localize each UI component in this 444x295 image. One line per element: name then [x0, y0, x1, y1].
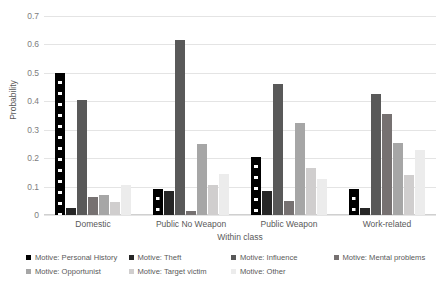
legend-swatch-icon [129, 255, 134, 260]
gridline [44, 215, 436, 216]
bar [295, 123, 305, 215]
y-axis-tick-label: 0 [34, 211, 39, 220]
y-axis-tick-label: 0.6 [27, 40, 39, 49]
bar [186, 211, 196, 215]
bar [55, 73, 65, 215]
bar [251, 157, 261, 215]
legend-item[interactable]: Motive: Influence [231, 253, 334, 262]
legend-label: Motive: Personal History [35, 253, 117, 262]
x-axis-category-label: Public Weapon [240, 219, 338, 229]
y-axis-tick-label: 0.4 [27, 97, 39, 106]
x-axis-category-label: Domestic [44, 219, 142, 229]
legend-swatch-icon [334, 255, 339, 260]
y-axis-tick-label: 0.1 [27, 182, 39, 191]
bar [197, 144, 207, 215]
bar [306, 168, 316, 215]
legend-label: Motive: Theft [138, 253, 182, 262]
bar [393, 143, 403, 215]
legend-label: Motive: Opportunist [35, 267, 101, 276]
x-axis-title: Within class [44, 232, 436, 242]
legend-label: Motive: Target victim [138, 267, 207, 276]
legend-item[interactable]: Motive: Personal History [26, 253, 129, 262]
bar [360, 208, 370, 215]
bar [66, 208, 76, 215]
y-axis-tick-label: 0.7 [27, 12, 39, 21]
y-axis-title: Probability [8, 60, 18, 140]
y-axis-tick-label: 0.5 [27, 69, 39, 78]
bar [284, 201, 294, 215]
plot-area: 00.10.20.30.40.50.60.7 DomesticPublic No… [44, 16, 436, 215]
bar-group: Domestic [44, 16, 142, 215]
bar [208, 185, 218, 215]
bar [153, 189, 163, 215]
y-axis-tick-label: 0.2 [27, 154, 39, 163]
x-axis-category-label: Public No Weapon [142, 219, 240, 229]
bar [219, 174, 229, 215]
bar-group: Public No Weapon [142, 16, 240, 215]
legend-swatch-icon [231, 269, 236, 274]
bar [317, 179, 327, 215]
legend-item[interactable]: Motive: Target victim [129, 267, 232, 276]
chart-legend: Motive: Personal HistoryMotive: TheftMot… [26, 253, 436, 276]
bar [371, 94, 381, 215]
bar [99, 195, 109, 215]
legend-swatch-icon [26, 255, 31, 260]
bar-groups: DomesticPublic No WeaponPublic WeaponWor… [44, 16, 436, 215]
bar [415, 150, 425, 215]
bar [262, 191, 272, 215]
legend-swatch-icon [231, 255, 236, 260]
y-axis-tick-label: 0.3 [27, 125, 39, 134]
bar [349, 189, 359, 215]
legend-swatch-icon [129, 269, 134, 274]
legend-label: Motive: Other [240, 267, 286, 276]
legend-item[interactable]: Motive: Theft [129, 253, 232, 262]
bar [273, 84, 283, 215]
bar [77, 100, 87, 215]
legend-item[interactable]: Motive: Other [231, 267, 334, 276]
bar [404, 175, 414, 215]
bar [164, 191, 174, 215]
bar-group: Work-related [338, 16, 436, 215]
legend-label: Motive: Influence [240, 253, 297, 262]
legend-swatch-icon [26, 269, 31, 274]
grouped-bar-chart: Probability 00.10.20.30.40.50.60.7 Domes… [0, 0, 444, 295]
bar [175, 40, 185, 215]
bar [121, 185, 131, 215]
bar [88, 197, 98, 215]
x-axis-category-label: Work-related [338, 219, 436, 229]
legend-label: Motive: Mental problems [343, 253, 426, 262]
bar [382, 114, 392, 215]
legend-item[interactable]: Motive: Opportunist [26, 267, 129, 276]
legend-item[interactable]: Motive: Mental problems [334, 253, 437, 262]
bar [110, 202, 120, 215]
bar-group: Public Weapon [240, 16, 338, 215]
